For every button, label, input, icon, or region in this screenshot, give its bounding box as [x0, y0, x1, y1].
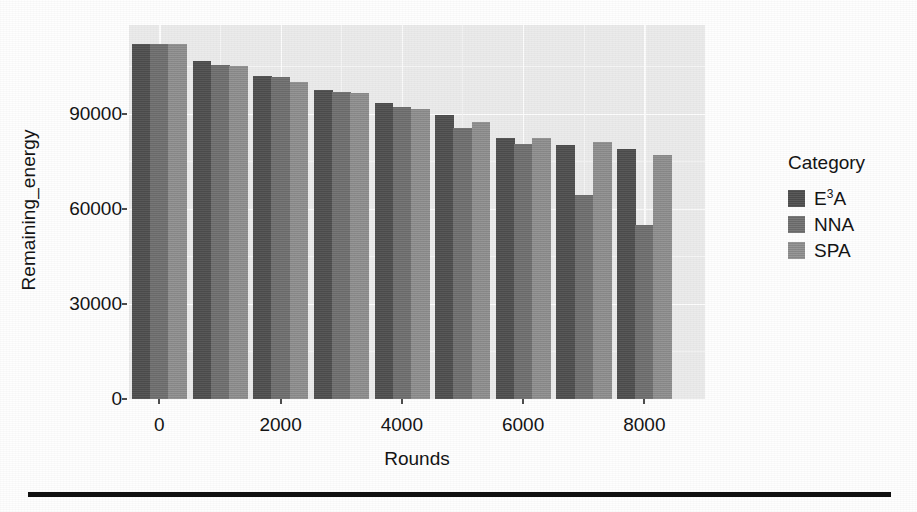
x-axis-title: Rounds: [129, 448, 705, 470]
legend-item-spa[interactable]: SPA: [788, 238, 913, 263]
legend-title: Category: [788, 152, 913, 174]
legend-label-nna: NNA: [814, 215, 854, 234]
x-tick-mark: [280, 399, 282, 404]
x-tick-label: 0: [154, 414, 165, 436]
x-tick-mark: [158, 399, 160, 404]
x-axis-tick-labels: 02000400060008000: [0, 0, 917, 512]
x-tick-mark: [643, 399, 645, 404]
legend-item-e3a[interactable]: E3A: [788, 186, 913, 211]
bottom-horizontal-rule: [28, 492, 891, 497]
legend-items: E3ANNASPA: [788, 186, 913, 263]
legend-swatch-e3a: [788, 190, 805, 207]
chart-figure: Remaining_energy 0300006000090000 020004…: [0, 0, 917, 512]
x-tick-label: 4000: [381, 414, 423, 436]
x-tick-mark: [522, 399, 524, 404]
legend-label-superscript: 3: [827, 187, 834, 201]
x-tick-label: 6000: [502, 414, 544, 436]
y-tick-mark: [122, 208, 127, 210]
y-tick-mark: [122, 113, 127, 115]
x-tick-mark: [401, 399, 403, 404]
legend-label-e3a: E3A: [814, 189, 846, 208]
x-tick-label: 8000: [623, 414, 665, 436]
legend-item-nna[interactable]: NNA: [788, 212, 913, 237]
legend: Category E3ANNASPA: [788, 152, 913, 264]
legend-swatch-nna: [788, 216, 805, 233]
x-tick-label: 2000: [259, 414, 301, 436]
legend-label-spa: SPA: [814, 241, 851, 260]
y-tick-mark: [122, 398, 127, 400]
legend-swatch-spa: [788, 242, 805, 259]
y-tick-mark: [122, 303, 127, 305]
